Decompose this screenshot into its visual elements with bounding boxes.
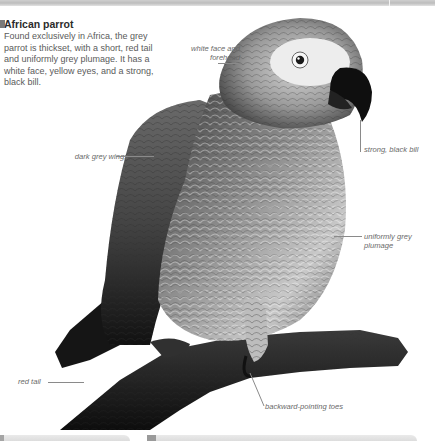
label-plumage: uniformly grey plumage [364,232,424,250]
label-bill: strong, black bill [364,145,435,154]
bottom-panel-right [147,435,417,441]
intro-body: Found exclusively in Africa, the grey pa… [4,31,154,89]
intro-title: African parrot [4,18,154,30]
leader-tail [48,382,84,383]
leader-wings [116,156,154,157]
bottom-panel-left [0,435,130,441]
label-white-face: white face and forehead [164,44,240,62]
bottom-panel-left-tab [0,435,4,441]
edge-mark [0,20,5,28]
bottom-panel-right-tab [147,435,156,441]
leader-plumage [334,236,362,237]
label-toes: backward-pointing toes [265,402,385,411]
intro-block: African parrot Found exclusively in Afri… [4,18,154,89]
leader-bill [360,120,361,152]
leader-white-face [218,63,238,64]
